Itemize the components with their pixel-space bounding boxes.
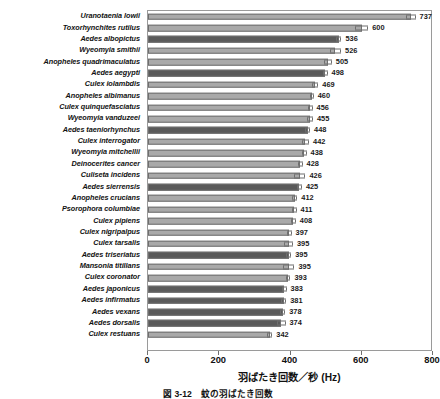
bar-value-label: 442 [313,138,325,145]
bar-row: 425 [148,181,431,192]
error-bar [307,116,313,121]
bar [148,218,293,225]
bar [148,263,289,270]
error-bar [294,173,305,178]
plot-area: 7376005365265054984694604564554484424384… [147,10,432,351]
category-label: Aedes vexans [0,305,144,316]
category-label: Aedes dorsalis [0,317,144,328]
bar-row: 393 [148,272,431,283]
error-bar [292,196,297,201]
error-bar [302,139,309,144]
category-label: Aedes taeniorhynchus [0,124,144,135]
category-label: Culex interrogator [0,135,144,146]
bar-value-label: 526 [345,47,357,54]
category-label: Wyeomyia vanduzeei [0,112,144,123]
bar-row: 460 [148,91,431,102]
bar [148,229,289,236]
bar-value-label: 426 [309,172,321,179]
bar-row: 411 [148,204,431,215]
x-axis-tick-label: 200 [210,355,226,365]
bar [148,206,294,213]
error-bar [305,128,310,133]
category-label: Deinocerites cancer [0,158,144,169]
bar-value-label: 448 [314,127,326,134]
bar-row: 469 [148,79,431,90]
bar [148,286,284,293]
bar-value-label: 737 [420,13,432,20]
bar [148,297,284,304]
error-bar [291,219,296,224]
error-bar [287,230,291,235]
error-bar [280,310,285,315]
category-label: Wyeomyia smithii [0,44,144,55]
category-label: Culex iolambdis [0,78,144,89]
bar-value-label: 412 [301,195,313,202]
x-axis-tick-label: 800 [424,355,440,365]
bar-row: 374 [148,318,431,329]
category-label: Aedes albopictus [0,33,144,44]
x-axis-tick-label: 600 [353,355,369,365]
category-label: Aedes aegypti [0,67,144,78]
error-bar [355,26,368,31]
bar [148,172,300,179]
bar-row: 448 [148,125,431,136]
category-axis-labels: Uranotaenia lowiiToxorhynchites rutilusA… [0,10,144,351]
bar-row: 412 [148,193,431,204]
bar [148,13,411,20]
bar-row: 456 [148,102,431,113]
bar [148,70,325,77]
bar-value-label: 395 [295,252,307,259]
bar-row: 505 [148,56,431,67]
bar-row: 426 [148,170,431,181]
bar-row: 383 [148,284,431,295]
bar-row: 428 [148,159,431,170]
bar-row: 438 [148,147,431,158]
bar-value-label: 395 [298,263,310,270]
error-bar [312,82,318,87]
error-bar [286,275,291,280]
bar [148,127,308,134]
bar-value-label: 498 [332,70,344,77]
bar-value-label: 428 [307,161,319,168]
bar [148,150,304,157]
bar [148,241,289,248]
bar-value-label: 505 [336,58,348,65]
category-label: Anopheles albimanus [0,90,144,101]
bar-value-label: 536 [345,36,357,43]
bar [148,275,288,282]
x-axis-tick-label: 0 [144,355,149,365]
error-bar [286,253,291,258]
bar-value-label: 342 [276,331,288,338]
bar-value-label: 460 [318,92,330,99]
x-axis-tick-labels: 0200400600800 [147,355,432,367]
bar-row: 442 [148,136,431,147]
bar-value-label: 381 [290,297,302,304]
bar [148,309,283,316]
bar-row: 455 [148,113,431,124]
bar [148,331,270,338]
error-bar [323,71,327,76]
bar [148,184,299,191]
bar-row: 342 [148,329,431,340]
category-label: Culex pipiens [0,214,144,225]
bar [148,25,362,32]
category-label: Aedes japonicus [0,283,144,294]
bar [148,93,312,100]
error-bar [297,185,302,190]
error-bar [281,298,286,303]
category-label: Aedes sierrensis [0,180,144,191]
bar-row: 395 [148,250,431,261]
category-label: Psorophora columbiae [0,203,144,214]
bar-value-label: 411 [301,206,313,213]
category-label: Uranotaenia lowii [0,10,144,21]
bar [148,138,305,145]
bar-row: 526 [148,45,431,56]
error-bar [308,105,312,110]
bar-value-label: 456 [317,104,329,111]
category-label: Culex nigripalpus [0,226,144,237]
bar-row: 395 [148,261,431,272]
bar [148,252,289,259]
category-label: Culiseta incidens [0,169,144,180]
bar-row: 536 [148,34,431,45]
bar [148,320,281,327]
